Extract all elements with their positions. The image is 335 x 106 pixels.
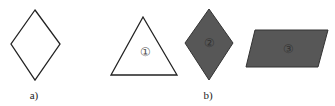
panel-b: ① ② ③ b) — [111, 9, 328, 102]
rhombus-a — [11, 10, 60, 80]
shape-label-1: ① — [140, 45, 151, 59]
shape-label-3: ③ — [283, 42, 294, 56]
caption-a: a) — [30, 89, 39, 102]
panel-a: a) — [11, 10, 60, 102]
caption-b: b) — [203, 89, 213, 102]
geometry-figure: a) ① ② ③ b) — [0, 0, 335, 106]
shape-label-2: ② — [204, 36, 215, 50]
